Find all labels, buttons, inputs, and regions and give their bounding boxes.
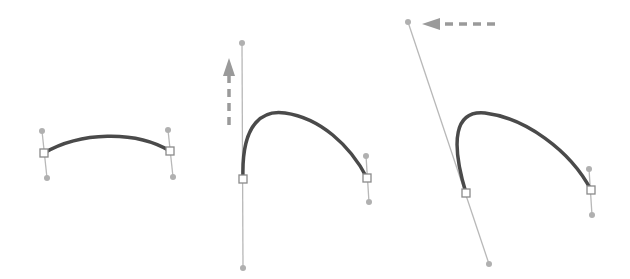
- bezier-curve: [457, 113, 591, 193]
- handle-point[interactable]: [39, 128, 45, 134]
- anchor-point[interactable]: [587, 186, 595, 194]
- handle-point[interactable]: [240, 265, 246, 271]
- handle-point[interactable]: [44, 175, 50, 181]
- handle-line: [408, 22, 489, 264]
- handle-point[interactable]: [170, 174, 176, 180]
- anchor-point[interactable]: [40, 149, 48, 157]
- anchor-point[interactable]: [462, 189, 470, 197]
- bezier-curve: [44, 136, 170, 153]
- anchor-point[interactable]: [166, 147, 174, 155]
- anchor-point[interactable]: [239, 175, 247, 183]
- bezier-diagram: [0, 0, 630, 279]
- handle-point[interactable]: [486, 261, 492, 267]
- arrow-up-icon: [223, 58, 235, 76]
- panel-1: [39, 127, 176, 181]
- handle-point[interactable]: [366, 199, 372, 205]
- handle-point[interactable]: [165, 127, 171, 133]
- bezier-curve: [243, 113, 367, 179]
- panel-2: [223, 40, 372, 271]
- panel-3: [405, 18, 595, 267]
- handle-point[interactable]: [239, 40, 245, 46]
- handle-point[interactable]: [405, 19, 411, 25]
- anchor-point[interactable]: [363, 174, 371, 182]
- arrow-left-icon: [422, 18, 440, 30]
- handle-point[interactable]: [586, 166, 592, 172]
- handle-point[interactable]: [363, 153, 369, 159]
- handle-point[interactable]: [589, 212, 595, 218]
